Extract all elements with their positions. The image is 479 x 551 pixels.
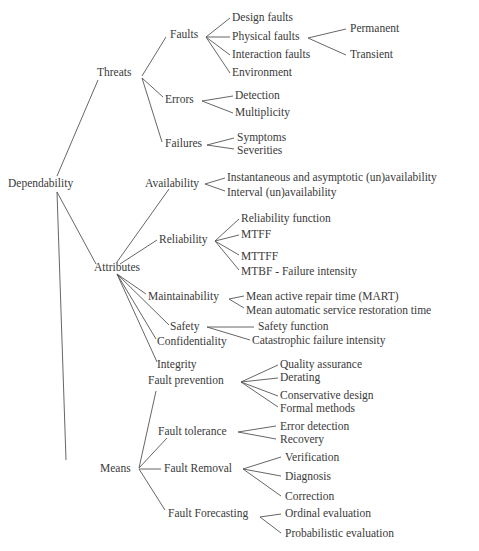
edge-faults-to-interaction-faults [206,37,230,55]
node-conservative-design: Conservative design [280,390,374,402]
node-probabilistic-eval: Probabilistic evaluation [285,528,394,540]
node-threats: Threats [97,67,131,79]
edge-fault-prevention-to-quality-assurance [241,365,278,382]
edge-means-to-fault-tolerance [139,438,167,468]
node-mean-auto: Mean automatic service restoration time [246,305,431,317]
node-errors: Errors [165,94,194,106]
node-ordinal-eval: Ordinal evaluation [285,508,371,520]
edge-fault-prevention-to-conservative-design [241,382,278,396]
node-integrity: Integrity [157,359,197,371]
node-fault-removal: Fault Removal [164,463,232,475]
edge-faults-to-environment [206,37,230,73]
node-safety: Safety [170,321,199,333]
node-safety-function: Safety function [258,321,329,333]
node-attributes: Attributes [94,262,140,274]
node-mtbf: MTBF - Failure intensity [241,266,357,278]
edge-physical-faults-to-permanent [308,29,346,38]
edge-means-to-fault-prevention [139,391,156,468]
node-maintainability: Maintainability [148,291,219,303]
edge-faults-to-design-faults [206,18,230,37]
edge-dependability-to-threats [57,80,98,176]
edge-fault-removal-to-verification [243,457,281,469]
edge-means-to-fault-forecasting [139,469,165,510]
node-failures: Failures [165,138,202,150]
node-permanent: Permanent [350,23,399,35]
edge-fault-prevention-to-formal-methods [241,382,278,407]
edge-fault-tolerance-to-error-detection [238,426,276,432]
node-fault-forecasting: Fault Forecasting [168,508,248,520]
node-dependability: Dependability [8,178,73,190]
edge-dependability-to-attributes [57,192,96,264]
node-quality-assurance: Quality assurance [280,359,362,371]
node-verification: Verification [285,452,339,464]
edge-errors-to-multiplicity [202,101,233,113]
node-derating: Derating [280,372,320,384]
node-availability: Availability [145,178,199,190]
node-interval-avail: Interval (un)availability [227,187,337,199]
edge-attributes-to-availability [117,189,169,262]
edge-failures-to-severities [207,145,234,149]
edge-fault-removal-to-correction [243,469,281,496]
edge-fault-forecasting-to-probabilistic-eval [260,517,281,533]
node-reliability: Reliability [159,234,208,246]
node-physical-faults: Physical faults [232,31,299,43]
node-mtff: MTFF [241,229,271,241]
edge-maintainability-to-mart [229,296,244,299]
edge-fault-prevention-to-derating [241,378,278,382]
node-symptoms: Symptoms [237,132,286,144]
edge-availability-to-inst-avail [205,178,225,184]
node-detection: Detection [235,90,280,102]
node-means: Means [100,463,131,475]
edge-availability-to-interval-avail [205,184,225,191]
dependability-tree-diagram: DependabilityThreatsFaultsDesign faultsP… [0,0,479,551]
edge-reliability-to-mttff [215,241,239,255]
node-mttff: MTTFF [241,251,278,263]
node-mart: Mean active repair time (MART) [246,291,399,303]
edge-reliability-to-mtbf [215,241,239,270]
node-transient: Transient [350,49,393,61]
node-error-detection: Error detection [280,421,349,433]
node-diagnosis: Diagnosis [285,471,331,483]
node-environment: Environment [232,67,292,79]
node-design-faults: Design faults [232,12,293,24]
node-fault-tolerance: Fault tolerance [158,426,227,438]
edge-threats-to-faults [142,37,166,76]
edge-attributes-to-integrity [117,274,157,362]
edge-physical-faults-to-transient [308,38,346,55]
edge-fault-forecasting-to-ordinal-eval [260,514,281,517]
node-confidentiality: Confidentiality [157,336,227,348]
tree-edges [0,0,479,551]
edge-fault-tolerance-to-recovery [238,432,276,439]
node-formal-methods: Formal methods [280,403,355,415]
edge-dependability-to-means [57,192,66,460]
node-inst-avail: Instantaneous and asymptotic (un)availab… [227,172,437,184]
node-fault-prevention: Fault prevention [148,375,224,387]
node-severities: Severities [237,145,282,157]
edge-errors-to-detection [202,96,233,101]
node-multiplicity: Multiplicity [235,107,290,119]
node-recovery: Recovery [280,434,324,446]
edge-maintainability-to-mean-auto [229,299,244,308]
node-interaction-faults: Interaction faults [232,49,310,61]
node-faults: Faults [170,29,198,41]
node-catastrophic: Catastrophic failure intensity [252,335,386,347]
node-rel-function: Reliability function [241,213,331,225]
edge-failures-to-symptoms [207,138,234,145]
node-correction: Correction [285,491,334,503]
